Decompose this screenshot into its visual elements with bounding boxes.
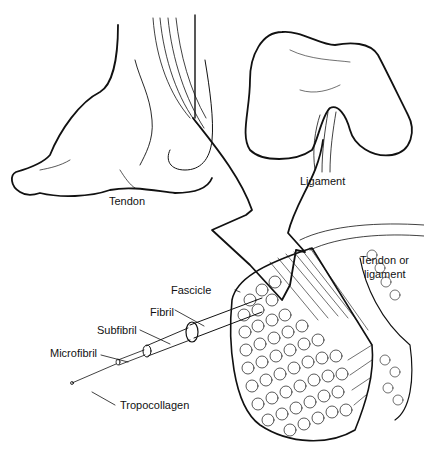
subfibril-label: Subfibril bbox=[97, 325, 137, 336]
tendon-or-ligament-label-line1: Tendon or bbox=[360, 255, 409, 266]
tropocollagen-label: Tropocollagen bbox=[120, 400, 189, 411]
ligament-label: Ligament bbox=[300, 176, 345, 187]
diagram-canvas bbox=[0, 0, 424, 450]
foot-illustration bbox=[12, 15, 213, 196]
transition-arrow bbox=[193, 118, 323, 300]
bone-illustration bbox=[246, 32, 412, 172]
tendon-or-ligament-label-line2: ligament bbox=[364, 269, 406, 280]
microfibril-label: Microfibril bbox=[50, 348, 97, 359]
tendon-label: Tendon bbox=[109, 196, 145, 207]
fibril-label: Fibril bbox=[150, 307, 174, 318]
fascicle-label: Fascicle bbox=[171, 285, 211, 296]
